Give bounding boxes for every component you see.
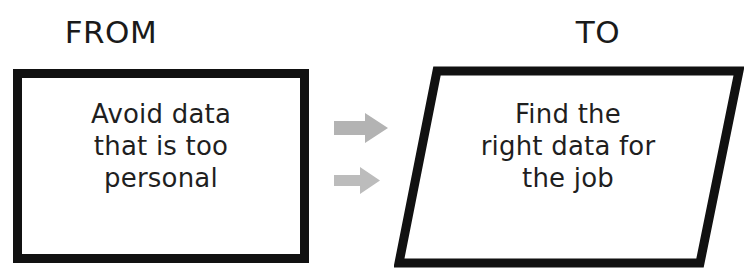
heading-to: TO	[486, 17, 710, 48]
from-box-line-2: that is too	[22, 130, 300, 162]
arrow-bottom	[334, 167, 380, 194]
to-box-line-3: the job	[428, 162, 708, 194]
from-box-text: Avoid data that is too personal	[22, 98, 300, 194]
from-box-line-1: Avoid data	[22, 98, 300, 130]
from-box-line-3: personal	[22, 162, 300, 194]
arrow-top	[334, 113, 388, 143]
heading-from: FROM	[0, 17, 222, 48]
diagram-canvas: FROM TO Avoid data that is too personal …	[0, 0, 749, 280]
to-box-line-2: right data for	[428, 130, 708, 162]
arrow-right-icon	[334, 167, 380, 194]
to-box-text: Find the right data for the job	[428, 98, 708, 194]
arrow-right-icon	[334, 113, 388, 143]
to-box-line-1: Find the	[428, 98, 708, 130]
